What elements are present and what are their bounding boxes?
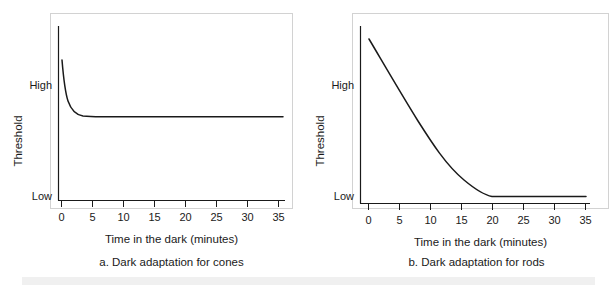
x-ticks-cones	[62, 201, 279, 208]
x-tick-label-cones-10: 10	[110, 212, 137, 223]
caption-cones: a. Dark adaptation for cones	[40, 256, 303, 268]
x-tick-label-cones-35: 35	[265, 212, 292, 223]
x-tick-label-rods-30: 30	[541, 215, 568, 226]
x-tick-label-rods-15: 15	[448, 215, 475, 226]
x-tick-label-rods-25: 25	[510, 215, 537, 226]
x-tick-label-rods-35: 35	[572, 215, 599, 226]
x-tick-label-cones-20: 20	[172, 212, 199, 223]
y-axis-title-rods: Threshold	[314, 111, 326, 171]
axes-rods	[360, 26, 590, 210]
x-tick-label-cones-0: 0	[48, 212, 75, 223]
x-tick-label-cones-25: 25	[203, 212, 230, 223]
curve-cones	[62, 60, 283, 117]
y-high-label-cones: High	[16, 80, 52, 91]
y-low-label-cones: Low	[16, 191, 52, 202]
x-tick-label-rods-20: 20	[479, 215, 506, 226]
caption-rods: b. Dark adaptation for rods	[345, 256, 608, 268]
y-high-label-rods: High	[318, 80, 354, 91]
x-axis-title-cones: Time in the dark (minutes)	[50, 233, 293, 245]
footer-band	[22, 277, 595, 285]
curve-rods	[369, 39, 586, 197]
x-tick-label-rods-5: 5	[386, 215, 413, 226]
x-tick-label-rods-0: 0	[355, 215, 382, 226]
dark-adaptation-figure: High Low Threshold 0 5 10 15 20 25 30 35…	[0, 0, 613, 287]
x-axis-title-rods: Time in the dark (minutes)	[352, 236, 609, 248]
x-tick-label-cones-30: 30	[234, 212, 261, 223]
x-tick-label-cones-5: 5	[79, 212, 106, 223]
x-tick-label-rods-10: 10	[417, 215, 444, 226]
y-low-label-rods: Low	[318, 191, 354, 202]
x-ticks-rods	[369, 204, 586, 211]
y-axis-title-cones: Threshold	[12, 111, 24, 171]
x-tick-label-cones-15: 15	[141, 212, 168, 223]
